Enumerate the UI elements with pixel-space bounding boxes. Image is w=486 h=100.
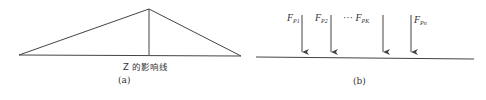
force-label-p1: FP1 bbox=[287, 13, 300, 24]
influence-line-caption: Z 的影响线 bbox=[123, 63, 168, 72]
panel-b-label: (b) bbox=[353, 77, 366, 86]
force-label-pk: ··· FPK bbox=[343, 13, 369, 24]
force-label-p2: FP2 bbox=[315, 13, 328, 24]
force-subscript: P1 bbox=[293, 18, 300, 24]
force-subscript: PK bbox=[362, 18, 370, 24]
force-subscript: Pn bbox=[420, 20, 427, 26]
ellipsis: ··· bbox=[343, 12, 356, 23]
influence-line-triangle bbox=[19, 9, 241, 56]
figure: Z 的影响线 (a) FP1 FP2 ··· FPK FPn (b) bbox=[0, 0, 486, 100]
panel-a-label: (a) bbox=[118, 76, 130, 85]
force-label-pn: FPn bbox=[414, 15, 427, 26]
force-subscript: P2 bbox=[321, 18, 328, 24]
baseline-a bbox=[19, 55, 241, 56]
right-slope bbox=[149, 9, 241, 56]
beam-line bbox=[256, 57, 474, 59]
left-slope bbox=[19, 9, 149, 55]
